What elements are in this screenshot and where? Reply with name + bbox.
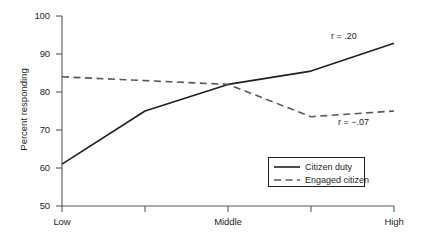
series-line-engaged-citizen	[62, 77, 394, 117]
annotation-r-citizen-duty: r = .20	[331, 31, 357, 41]
legend-swatch-dashed	[273, 175, 301, 185]
series-line-citizen-duty	[62, 43, 394, 164]
x-tick-label-middle: Middle	[198, 216, 258, 227]
annotation-r-engaged-citizen: r = −.07	[338, 117, 369, 127]
chart-legend: Citizen duty Engaged citizen	[268, 157, 365, 187]
y-tick-marks	[56, 16, 62, 206]
y-tick-label-90: 90	[26, 48, 50, 59]
y-tick-label-70: 70	[26, 124, 50, 135]
legend-item-engaged-citizen: Engaged citizen	[273, 173, 369, 186]
y-axis-title: Percent responding	[18, 40, 29, 180]
y-tick-label-60: 60	[26, 162, 50, 173]
x-tick-marks	[62, 206, 394, 212]
legend-item-citizen-duty: Citizen duty	[273, 160, 352, 173]
y-tick-label-50: 50	[26, 200, 50, 211]
x-tick-label-high: High	[364, 216, 423, 227]
legend-label-citizen-duty: Citizen duty	[305, 162, 352, 172]
y-tick-label-80: 80	[26, 86, 50, 97]
legend-swatch-solid	[273, 162, 301, 172]
x-tick-label-low: Low	[32, 216, 92, 227]
y-tick-label-100: 100	[26, 10, 50, 21]
legend-label-engaged-citizen: Engaged citizen	[305, 175, 369, 185]
chart-figure: Percent responding 100 90 80 70 60 50 Lo…	[0, 0, 423, 242]
